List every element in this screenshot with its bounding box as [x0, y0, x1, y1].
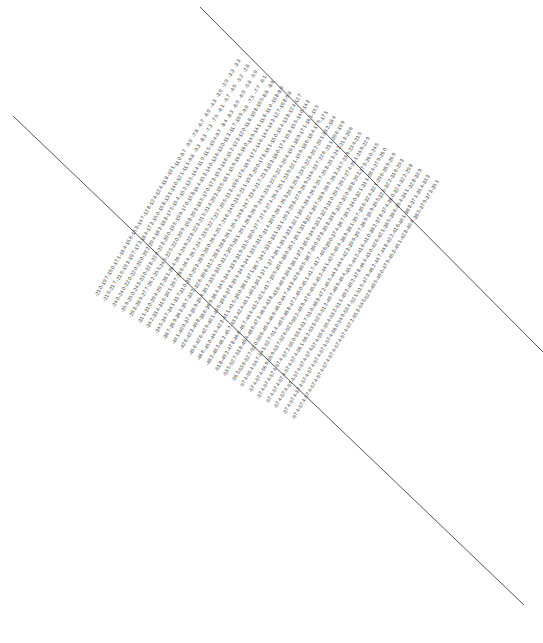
section-lines-group [13, 7, 543, 605]
section-lines-layer [0, 0, 543, 643]
lower-section-line [200, 7, 543, 352]
upper-section-line [13, 116, 524, 605]
figure-canvas: -3.3-2.8-5.9-6.1-8.6-8.9-9.8-12.7-14.3-1… [0, 0, 543, 643]
